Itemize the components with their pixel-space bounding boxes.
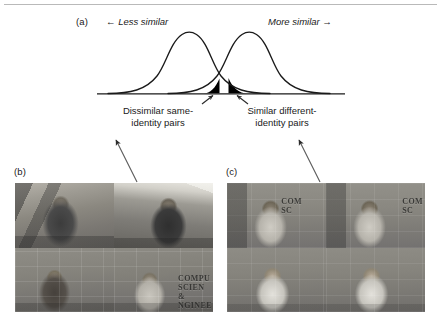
photo-cell-c2: COM SC [326,183,425,248]
caption-left-line1: Dissimilar same- [110,105,206,117]
photo-image-woman-wall-right-c [326,248,425,313]
photo-image-man-outdoors-left [15,183,114,248]
photo-image-man-wall-left [227,183,326,248]
photo-grid-panel-c: COM SC COM SC [227,183,425,312]
photo-cell-c3 [227,248,326,313]
wall-sign-text-panel-c-left: COM SC [281,197,302,215]
photo-grid-panel-b: COMPU SCIEN & NGINEE [15,183,213,312]
link-arrow-panel-b [116,140,137,182]
link-arrow-panel-c [299,140,320,182]
caption-dissimilar-same-identity: Dissimilar same- identity pairs [110,105,206,128]
photo-cell-b2 [114,183,213,248]
photo-cell-b1 [15,183,114,248]
photo-cell-c1: COM SC [227,183,326,248]
photo-image-woman-wall-left [15,248,114,313]
panel-label-b: (b) [14,166,26,177]
wall-sign-text-panel-c-right: COM SC [402,197,423,215]
photo-image-woman-wall-left-c [227,248,326,313]
photo-image-man-wall-right [326,183,425,248]
photo-cell-c4 [326,248,425,313]
caption-right-line2: identity pairs [232,117,332,129]
photo-cell-b4: COMPU SCIEN & NGINEE [114,248,213,313]
wall-sign-text-panel-b: COMPU SCIEN & NGINEE [178,274,212,310]
curve-different-identity [108,32,270,93]
curve-same-identity [168,32,330,93]
caption-similar-different-identity: Similar different- identity pairs [232,105,332,128]
photo-cell-b3 [15,248,114,313]
figure-root: (a) ← Less similar More similar → [0,0,441,330]
caption-right-line1: Similar different- [232,105,332,117]
pointer-arrow-left-tail [202,96,213,105]
caption-left-line2: identity pairs [110,117,206,129]
panel-label-c: (c) [226,166,237,177]
photo-image-man-outdoors-right [114,183,213,248]
pointer-arrow-right-tail [237,96,248,105]
